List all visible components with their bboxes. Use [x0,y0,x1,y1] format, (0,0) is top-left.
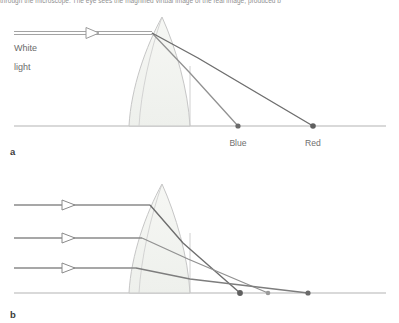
white-light-beam-a [14,28,152,39]
panel-b: b [10,184,386,320]
focal-point-inner-b [305,290,310,295]
focal-point-red [310,123,316,129]
lens-body-a [129,17,190,126]
focal-label-blue: Blue [229,138,246,148]
focal-point-blue [235,123,240,128]
incident-ray-outer-b [14,200,150,210]
panel-letter-b: b [10,309,16,320]
beam-arrowhead-a [86,28,99,39]
focal-point-outer-b [237,290,243,296]
focal-label-red: Red [305,138,321,148]
incident-ray-middle-b [14,233,142,243]
panel-letter-a: a [10,146,16,157]
panel-a: White light Blue Red a [10,17,386,157]
focal-point-middle-b [266,291,271,296]
white-light-label-line1: White [14,43,37,53]
figure-root: through the microscope. The eye sees the… [0,0,399,323]
aberration-diagram: White light Blue Red a [0,0,399,323]
white-light-label-line2: light [14,62,31,72]
incident-ray-inner-b [14,263,136,273]
